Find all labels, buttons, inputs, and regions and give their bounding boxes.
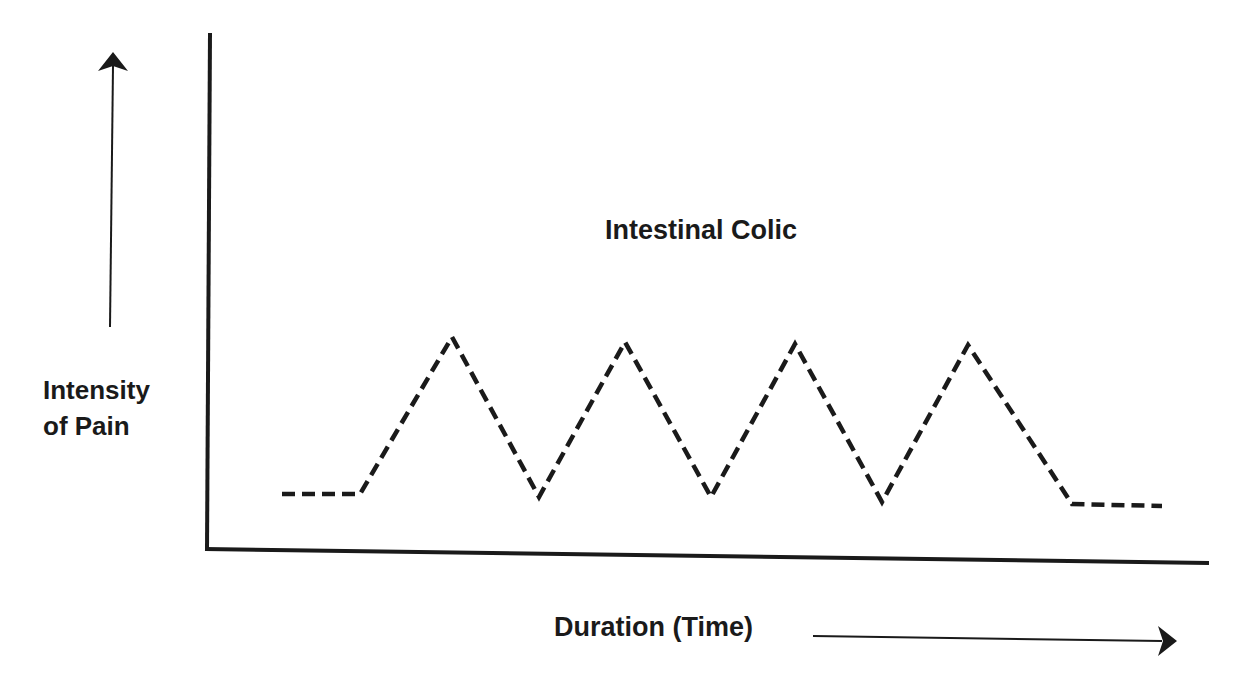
chart-canvas <box>0 0 1255 696</box>
y-axis-label: Intensity of Pain <box>43 372 150 444</box>
x-direction-arrow-icon <box>813 626 1177 656</box>
x-axis <box>205 549 1209 563</box>
y-direction-arrow-icon <box>98 52 128 327</box>
chart-title: Intestinal Colic <box>605 215 797 246</box>
x-axis-label: Duration (Time) <box>554 612 753 643</box>
y-axis <box>207 33 210 550</box>
pain-curve <box>282 337 1162 506</box>
y-axis-label-line2: of Pain <box>43 408 150 444</box>
y-axis-label-line1: Intensity <box>43 372 150 408</box>
